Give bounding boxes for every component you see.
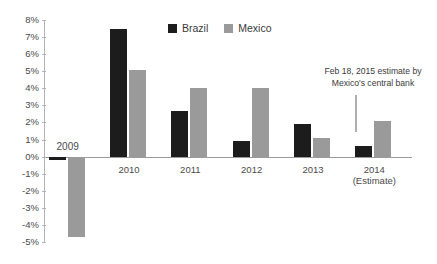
bar-brazil-2014 — [355, 146, 372, 156]
y-tick-label-4: 4% — [25, 84, 39, 94]
y-tick--2 — [42, 191, 46, 192]
y-tick-3 — [42, 105, 46, 106]
bar-mexico-2013 — [313, 138, 330, 157]
y-tick--1 — [42, 174, 46, 175]
x-label-main: 2010 — [118, 164, 139, 175]
y-tick-label-1: 1% — [25, 135, 39, 145]
y-tick-label-0: 0% — [25, 152, 39, 162]
y-tick-7 — [42, 37, 46, 38]
y-tick-2 — [42, 122, 46, 123]
y-tick-label--5: -5% — [22, 237, 39, 247]
y-tick--5 — [42, 242, 46, 243]
x-label-2014: 2014(Estimate) — [353, 164, 396, 186]
bar-mexico-2014 — [374, 121, 391, 157]
inplot-label-2009: 2009 — [57, 141, 79, 152]
y-tick-label-7: 7% — [25, 32, 39, 42]
x-label-2011: 2011 — [180, 164, 200, 175]
y-tick-6 — [42, 54, 46, 55]
bar-mexico-2012 — [252, 88, 269, 156]
y-tick-label--4: -4% — [22, 220, 39, 230]
y-tick-label-6: 6% — [25, 49, 39, 59]
bar-brazil-2011 — [171, 111, 188, 157]
bar-chart: Brazil Mexico Feb 18, 2015 estimate by M… — [0, 0, 437, 264]
y-tick-label--1: -1% — [22, 169, 39, 179]
y-tick-label-2: 2% — [25, 118, 39, 128]
y-tick-4 — [42, 88, 46, 89]
y-tick-8 — [42, 20, 46, 21]
y-tick-5 — [42, 71, 46, 72]
bar-brazil-2010 — [110, 29, 127, 157]
bar-brazil-2012 — [233, 141, 250, 156]
zero-baseline — [44, 157, 412, 158]
bar-mexico-2009 — [68, 157, 85, 237]
y-tick-label-3: 3% — [25, 101, 39, 111]
y-tick-label--3: -3% — [22, 203, 39, 213]
y-tick-label--2: -2% — [22, 186, 39, 196]
x-label-sub: (Estimate) — [353, 175, 396, 186]
plot-area: 8%7%6%5%4%3%2%1%0%-1%-2%-3%-4%-5% 201020… — [44, 20, 412, 242]
bar-brazil-2009 — [49, 157, 66, 160]
x-label-main: 2013 — [302, 164, 323, 175]
x-label-2012: 2012 — [241, 164, 262, 175]
bar-mexico-2011 — [190, 88, 207, 156]
x-label-main: 2012 — [241, 164, 262, 175]
x-label-2010: 2010 — [118, 164, 139, 175]
y-tick-1 — [42, 140, 46, 141]
x-label-2013: 2013 — [302, 164, 323, 175]
bar-mexico-2010 — [129, 70, 146, 157]
x-label-main: 2011 — [180, 164, 200, 175]
y-tick-label-5: 5% — [25, 66, 39, 76]
x-label-main: 2014 — [364, 164, 385, 175]
y-tick--3 — [42, 208, 46, 209]
y-tick-label-8: 8% — [25, 15, 39, 25]
y-tick--4 — [42, 225, 46, 226]
y-tick-0 — [42, 157, 46, 158]
bar-brazil-2013 — [294, 124, 311, 156]
